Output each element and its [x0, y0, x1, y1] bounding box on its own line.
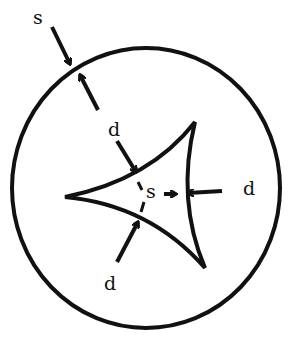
deltoid-curve: [65, 122, 205, 268]
diagram-svg: s d s d d: [0, 0, 288, 338]
label-d-upper: d: [108, 118, 120, 140]
label-d-lower: d: [104, 272, 116, 294]
label-s-inner: s: [146, 180, 156, 202]
diagram-canvas: s d s d d: [0, 0, 288, 338]
label-d-right: d: [243, 177, 255, 199]
label-s-outer: s: [33, 6, 43, 28]
d-upper-arrows: [117, 141, 142, 190]
d-right-arrows: [164, 191, 222, 194]
